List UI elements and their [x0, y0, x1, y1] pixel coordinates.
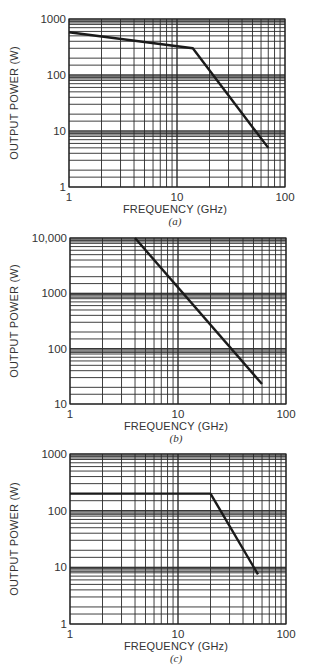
- x-tick-label: 1: [67, 408, 73, 420]
- y-tick-label: 1000: [40, 13, 66, 25]
- chart-c-panel-label: (c): [170, 652, 183, 665]
- chart-c-grid: [70, 454, 286, 624]
- chart-b-grid: [70, 238, 286, 404]
- chart-a-panel-label: (a): [169, 215, 182, 228]
- chart-b-x-ticks: 110100: [67, 408, 296, 420]
- y-tick-label: 10: [54, 561, 67, 573]
- y-tick-label: 100: [48, 505, 67, 517]
- chart-a: 1101001000 110100 OUTPUT POWER (W) FREQU…: [8, 13, 295, 228]
- x-tick-label: 1: [67, 628, 73, 640]
- charts-canvas: 1101001000 110100 OUTPUT POWER (W) FREQU…: [0, 0, 311, 672]
- x-tick-label: 10: [171, 191, 184, 203]
- chart-b-panel-label: (b): [170, 432, 183, 445]
- y-tick-label: 1000: [41, 448, 67, 460]
- chart-b: 10100100010,000 110100 OUTPUT POWER (W) …: [8, 232, 296, 445]
- y-tick-label: 10: [53, 125, 66, 137]
- chart-b-y-ticks: 10100100010,000: [32, 232, 67, 410]
- chart-a-power-curve: [69, 32, 268, 148]
- chart-a-y-ticks: 1101001000: [40, 13, 66, 193]
- chart-c-x-ticks: 110100: [67, 628, 296, 640]
- x-tick-label: 100: [275, 191, 294, 203]
- chart-c-y-ticks: 1101001000: [41, 448, 67, 630]
- chart-c-y-axis-title: OUTPUT POWER (W): [8, 482, 20, 596]
- y-tick-label: 1000: [41, 287, 67, 299]
- x-tick-label: 100: [276, 628, 295, 640]
- chart-a-grid: [69, 19, 285, 187]
- chart-c-x-axis-title: FREQUENCY (GHz): [124, 640, 228, 652]
- chart-a-y-axis-title: OUTPUT POWER (W): [8, 46, 20, 160]
- x-tick-label: 100: [276, 408, 295, 420]
- chart-b-y-axis-title: OUTPUT POWER (W): [8, 264, 20, 378]
- y-tick-label: 10,000: [32, 232, 67, 244]
- chart-a-x-axis-title: FREQUENCY (GHz): [123, 203, 227, 215]
- x-tick-label: 1: [66, 191, 72, 203]
- figure-three-panel-log-charts: 1101001000 110100 OUTPUT POWER (W) FREQU…: [0, 0, 311, 672]
- y-tick-label: 10: [54, 398, 67, 410]
- chart-c: 1101001000 110100 OUTPUT POWER (W) FREQU…: [8, 448, 296, 665]
- x-tick-label: 10: [172, 628, 185, 640]
- y-tick-label: 100: [47, 69, 66, 81]
- chart-a-x-ticks: 110100: [66, 191, 295, 203]
- y-tick-label: 100: [48, 343, 67, 355]
- chart-b-x-axis-title: FREQUENCY (GHz): [124, 420, 228, 432]
- x-tick-label: 10: [172, 408, 185, 420]
